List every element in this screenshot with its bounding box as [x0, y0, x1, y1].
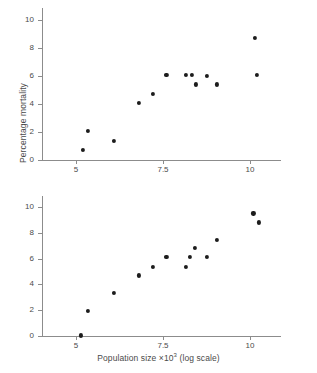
y-tick-label: 4 — [18, 280, 34, 288]
x-tick — [163, 336, 164, 340]
x-axis-label-prefix: Population size ×10 — [97, 353, 173, 363]
y-tick — [38, 160, 42, 161]
data-point — [86, 129, 90, 133]
x-tick-label: 10 — [237, 342, 263, 350]
data-point — [257, 220, 261, 224]
figure: Percentage mortality 024681057.510 02468… — [0, 0, 317, 373]
scatter-panel-top: 024681057.510 — [0, 0, 317, 180]
x-axis-label: Population size ×103 (log scale) — [0, 352, 317, 363]
data-point — [215, 82, 219, 86]
x-tick — [76, 160, 77, 164]
y-tick-label: 0 — [18, 332, 34, 340]
scatter-panel-bottom: 024681057.510 — [0, 186, 317, 356]
data-point — [194, 82, 198, 86]
x-tick — [76, 336, 77, 340]
x-tick-label: 7.5 — [150, 342, 176, 350]
x-tick-label: 10 — [237, 166, 263, 174]
y-tick-label: 2 — [18, 128, 34, 136]
plot-area-bottom: 024681057.510 — [0, 186, 317, 356]
data-point — [204, 74, 208, 78]
x-axis-line — [42, 160, 281, 161]
data-point — [137, 101, 141, 105]
y-tick-label: 8 — [18, 229, 34, 237]
x-tick — [163, 160, 164, 164]
y-axis-line — [42, 8, 43, 160]
data-point — [184, 73, 188, 77]
data-point — [184, 265, 188, 269]
y-tick — [38, 259, 42, 260]
y-tick-label: 8 — [18, 44, 34, 52]
data-point — [112, 139, 116, 143]
data-point — [86, 309, 90, 313]
y-tick-label: 4 — [18, 100, 34, 108]
x-tick-label: 5 — [63, 166, 89, 174]
y-tick-label: 10 — [18, 203, 34, 211]
data-point — [251, 211, 255, 215]
y-tick — [38, 76, 42, 77]
y-tick — [38, 310, 42, 311]
x-tick — [250, 160, 251, 164]
y-tick — [38, 336, 42, 337]
y-tick — [38, 284, 42, 285]
data-point — [188, 255, 192, 259]
data-point — [255, 73, 259, 77]
x-tick-label: 7.5 — [150, 166, 176, 174]
y-tick — [38, 233, 42, 234]
data-point — [137, 273, 141, 277]
y-tick — [38, 132, 42, 133]
y-tick — [38, 20, 42, 21]
data-point — [112, 291, 116, 295]
y-axis-line — [42, 196, 43, 336]
data-point — [164, 73, 168, 77]
data-point — [189, 73, 193, 77]
y-tick-label: 2 — [18, 306, 34, 314]
data-point — [215, 238, 219, 242]
data-point — [193, 246, 197, 250]
y-tick-label: 6 — [18, 255, 34, 263]
y-tick — [38, 48, 42, 49]
data-point — [253, 35, 257, 39]
data-point — [164, 255, 168, 259]
data-point — [81, 148, 85, 152]
plot-area-top: 024681057.510 — [0, 0, 317, 180]
x-tick — [250, 336, 251, 340]
x-axis-label-suffix: (log scale) — [177, 353, 220, 363]
y-tick-label: 0 — [18, 156, 34, 164]
data-point — [150, 265, 154, 269]
y-tick — [38, 207, 42, 208]
x-axis-line — [42, 336, 281, 337]
data-point — [204, 255, 208, 259]
y-tick-label: 6 — [18, 72, 34, 80]
data-point — [150, 91, 154, 95]
y-tick-label: 10 — [18, 16, 34, 24]
x-tick-label: 5 — [63, 342, 89, 350]
y-tick — [38, 104, 42, 105]
